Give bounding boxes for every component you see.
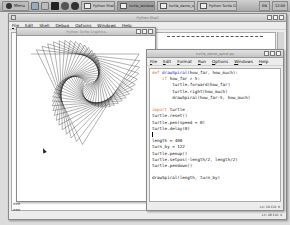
shell-title: Python Shell <box>137 16 159 20</box>
desktop: Menu Python Shell turtle_window.. (Demo)… <box>0 0 290 225</box>
editor-menubar: File Edit Format Run Options Windows Hel… <box>147 58 283 66</box>
browser-icon[interactable] <box>71 2 79 10</box>
shell-status: Ln: 48 Col: 4 <box>260 212 284 218</box>
shell-prompt[interactable]: >>> <box>13 207 20 212</box>
window-icon <box>120 3 127 9</box>
shell-titlebar[interactable]: Python Shell <box>9 14 286 22</box>
start-menu-button[interactable]: Menu <box>2 1 29 11</box>
files-icon[interactable] <box>31 2 39 10</box>
keyboard-layout[interactable]: EN <box>259 1 270 11</box>
menu-format[interactable]: Format <box>177 59 192 64</box>
taskbar: Menu Python Shell turtle_window.. (Demo)… <box>0 0 290 12</box>
code-editor[interactable]: def drawSpiral(how_far, how_much): if ho… <box>149 68 281 202</box>
settings-icon[interactable] <box>61 2 69 10</box>
menu-logo-icon <box>6 3 12 9</box>
turtle-titlebar[interactable]: Python Turtle Graphics <box>17 28 155 36</box>
editor-status: Ln: 10 Col: 0 <box>260 205 280 209</box>
close-icon[interactable] <box>279 15 284 20</box>
editor-title: turtle_demo_spiral.py <box>196 52 234 56</box>
window-menu-icon[interactable] <box>11 15 16 20</box>
minimize-icon[interactable] <box>136 29 141 34</box>
turtle-canvas[interactable] <box>17 36 155 201</box>
taskbar-task-editor[interactable]: turtle_demo_spiral.py <box>157 1 195 11</box>
code-line: drawSpiral(length, turn_by) <box>152 175 278 181</box>
menu-file[interactable]: File <box>150 59 157 64</box>
spiral-drawing <box>17 36 157 203</box>
editor-icon[interactable] <box>41 2 49 10</box>
window-icon <box>160 3 167 9</box>
maximize-icon[interactable] <box>270 51 275 56</box>
menu-help[interactable]: Help <box>259 59 269 64</box>
clock[interactable]: 12:00 <box>272 1 288 11</box>
taskbar-task-turtle-graphics[interactable]: Python Turtle Graphics <box>197 1 237 11</box>
spiral-path <box>31 40 140 144</box>
taskbar-task-python-shell[interactable]: Python Shell <box>81 1 115 11</box>
menu-label: Menu <box>14 3 25 8</box>
maximize-icon[interactable] <box>142 29 147 34</box>
close-icon[interactable] <box>276 51 281 56</box>
window-icon <box>84 3 91 9</box>
menu-windows[interactable]: Windows <box>234 59 253 64</box>
restart-separator <box>167 36 263 37</box>
minimize-icon[interactable] <box>264 51 269 56</box>
taskbar-task-turtle-window[interactable]: turtle_window.. (Demo) <box>117 1 155 11</box>
maximize-icon[interactable] <box>273 15 278 20</box>
system-tray: EN 12:00 <box>259 1 288 11</box>
menu-options[interactable]: Options <box>212 59 228 64</box>
minimize-icon[interactable] <box>267 15 272 20</box>
menu-edit[interactable]: Edit <box>163 59 171 64</box>
turtle-title: Python Turtle Graphics <box>66 30 106 34</box>
turtle-graphics-window: Python Turtle Graphics <box>16 27 156 202</box>
editor-window: turtle_demo_spiral.py File Edit Format R… <box>146 49 284 211</box>
editor-titlebar[interactable]: turtle_demo_spiral.py <box>147 50 283 58</box>
close-icon[interactable] <box>148 29 153 34</box>
menu-run[interactable]: Run <box>198 59 206 64</box>
window-icon <box>200 3 207 9</box>
terminal-icon[interactable] <box>51 2 59 10</box>
